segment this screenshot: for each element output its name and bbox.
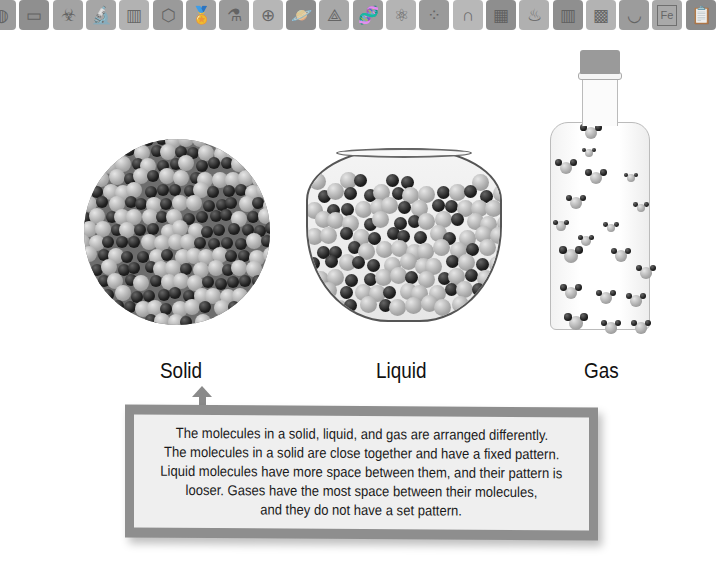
- molecule-ball: [344, 299, 357, 312]
- bottle-neck: [582, 72, 618, 126]
- petri-grid-icon[interactable]: ▩: [586, 0, 616, 30]
- molecule-ball: [497, 301, 502, 314]
- molecule-ball: [559, 246, 567, 254]
- hexagon-molecule-icon-glyph: ⬡: [161, 7, 176, 24]
- callout-line: and they do not have a set pattern.: [261, 500, 463, 520]
- molecule-ball: [580, 313, 587, 320]
- molecule-ball: [227, 276, 239, 288]
- mortar-pestle-icon-glyph: ◡: [627, 7, 642, 24]
- bunsen-burner-icon[interactable]: ♨: [519, 0, 549, 30]
- molecule-ball: [575, 284, 582, 291]
- molecule-ball: [389, 299, 406, 316]
- dna-icon[interactable]: 🧬: [353, 0, 383, 30]
- molecule-ball: [199, 301, 211, 313]
- molecule-ball: [580, 195, 587, 202]
- molecule-ball: [465, 269, 478, 282]
- dropper-bottle-icon-glyph: ⚗: [227, 7, 242, 24]
- calculator-icon[interactable]: ▦: [486, 0, 516, 30]
- molecule-ball: [320, 227, 337, 244]
- atom-icon-glyph: ⚛: [394, 7, 409, 24]
- molecule-ball: [124, 301, 136, 313]
- molecule-ball: [495, 269, 502, 282]
- molecule-ball: [372, 211, 389, 228]
- molecule-ball: [234, 139, 246, 144]
- molecule-ball: [340, 286, 353, 299]
- molecule-ball: [432, 199, 445, 212]
- molecule-ball: [109, 169, 125, 185]
- molecule-ball: [479, 239, 496, 256]
- test-tube-rack-icon[interactable]: ▥: [553, 0, 583, 30]
- molecule-ball: [405, 297, 422, 314]
- periodic-element-fe-icon[interactable]: Fe: [652, 0, 682, 30]
- molecule-ball: [115, 315, 127, 325]
- molecule-ball: [352, 256, 365, 269]
- mortar-pestle-icon[interactable]: ◡: [619, 0, 649, 30]
- bunsen-burner-icon-glyph: ♨: [527, 7, 542, 24]
- chalkboard-icon[interactable]: ▭: [19, 0, 49, 30]
- liquid-molecules-bowl-image: [306, 148, 502, 322]
- microorganism-icon[interactable]: ◍: [0, 0, 16, 30]
- molecule-ball: [360, 296, 377, 313]
- molecule-ball: [375, 269, 392, 286]
- clipboard-icon[interactable]: 📋: [686, 0, 716, 30]
- molecule-ball: [157, 184, 169, 196]
- biohazard-icon[interactable]: ☣: [53, 0, 83, 30]
- test-tube-rack-icon-glyph: ▥: [560, 7, 576, 24]
- test-tubes-chart-icon[interactable]: ▥: [119, 0, 149, 30]
- molecule-ball: [209, 317, 221, 325]
- molecule-ball: [340, 227, 353, 240]
- particles-icon[interactable]: ⁘: [419, 0, 449, 30]
- magnifier-plus-icon[interactable]: ⊕: [253, 0, 283, 30]
- hexagon-molecule-icon[interactable]: ⬡: [153, 0, 183, 30]
- molecule-ball: [320, 282, 337, 299]
- molecule-ball: [111, 145, 123, 157]
- molecule-ball: [186, 195, 202, 211]
- molecule-ball: [260, 157, 270, 169]
- molecule-ball: [213, 224, 225, 236]
- molecule-ball: [434, 299, 451, 316]
- cork-icon: [580, 50, 620, 74]
- molecule-ball: [169, 287, 181, 299]
- award-ribbon-icon[interactable]: 🏅: [186, 0, 216, 30]
- molecule-ball: [202, 276, 214, 288]
- molecule-ball: [123, 144, 135, 156]
- molecule-ball: [265, 222, 270, 234]
- magnet-icon[interactable]: ∩: [453, 0, 483, 30]
- atom-icon[interactable]: ⚛: [386, 0, 416, 30]
- molecule-ball: [228, 223, 240, 235]
- microscope-icon-glyph: 🔬: [91, 7, 112, 24]
- magnifier-plus-icon-glyph: ⊕: [261, 7, 275, 24]
- planet-icon[interactable]: 🪐: [286, 0, 316, 30]
- dna-icon-glyph: 🧬: [358, 7, 379, 24]
- biohazard-icon-glyph: ☣: [61, 7, 76, 24]
- molecule-ball: [354, 174, 367, 187]
- callout-line: The molecules in a solid are close toget…: [164, 443, 559, 464]
- molecule-ball: [201, 226, 213, 238]
- molecule-ball: [145, 186, 157, 198]
- molecule-ball: [650, 265, 656, 271]
- molecule-ball: [414, 231, 427, 244]
- explanation-callout: The molecules in a solid, liquid, and ga…: [125, 405, 598, 541]
- molecule-ball: [614, 222, 619, 227]
- molecule-ball: [625, 248, 632, 255]
- molecule-ball: [223, 185, 235, 197]
- molecule-ball: [644, 202, 649, 207]
- molecule-bond-icon[interactable]: ⟁: [319, 0, 349, 30]
- molecule-ball: [433, 239, 450, 256]
- molecule-ball: [128, 262, 140, 274]
- molecule-ball: [178, 155, 194, 171]
- molecule-ball: [449, 184, 466, 201]
- molecule-ball: [615, 320, 621, 326]
- molecule-ball: [307, 284, 320, 297]
- molecule-ball: [147, 170, 159, 182]
- molecule-ball: [603, 222, 608, 227]
- molecule-ball: [578, 235, 583, 240]
- dropper-bottle-icon[interactable]: ⚗: [219, 0, 249, 30]
- periodic-element-fe-icon-glyph: Fe: [657, 5, 678, 26]
- molecule-ball: [589, 235, 594, 240]
- molecule-ball: [485, 200, 502, 217]
- molecule-ball: [386, 174, 399, 187]
- molecule-ball: [472, 283, 485, 296]
- microscope-icon[interactable]: 🔬: [86, 0, 116, 30]
- microorganism-icon-glyph: ◍: [0, 7, 9, 24]
